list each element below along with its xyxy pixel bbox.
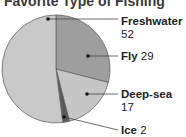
leader-line: [64, 117, 118, 130]
label-ice: Ice 2: [121, 124, 147, 137]
leader-dot: [46, 17, 50, 21]
label-freshwater: Freshwater 52: [121, 15, 182, 41]
label-ice-value: 2: [140, 124, 146, 136]
label-fly-value: 29: [141, 50, 154, 62]
label-fly-name: Fly: [121, 50, 138, 62]
label-freshwater-value: 52: [121, 28, 134, 40]
label-freshwater-name: Freshwater: [121, 15, 182, 27]
label-fly: Fly 29: [121, 50, 154, 63]
leader-dot: [62, 115, 66, 119]
label-deepsea-name: Deep-sea: [121, 88, 172, 100]
label-ice-name: Ice: [121, 124, 137, 136]
label-deepsea-value: 17: [121, 101, 134, 113]
leader-dot: [85, 92, 89, 96]
leader-dot: [86, 54, 90, 58]
pie-slice-freshwater: [2, 15, 63, 123]
label-deepsea: Deep-sea 17: [121, 88, 172, 114]
